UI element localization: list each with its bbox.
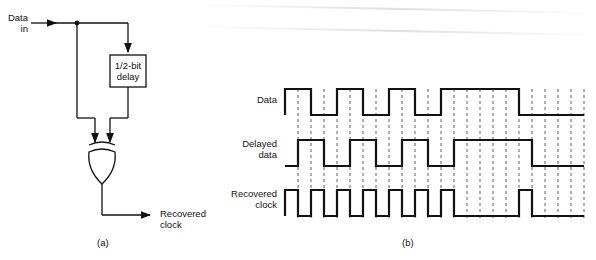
data-in-label-line2: in <box>2 23 28 34</box>
xor-gate-body <box>89 149 115 184</box>
waveform-0 <box>285 89 584 115</box>
output-label-line2: clock <box>160 219 206 230</box>
caption-a: (a) <box>97 237 109 248</box>
delay-label: 1/2-bit delay <box>110 60 146 82</box>
output-label-line1: Recovered <box>160 208 206 219</box>
timing-diagram <box>285 89 584 218</box>
waveform-1 <box>285 140 584 166</box>
circuit-diagram <box>0 0 596 260</box>
signal-label-line2: clock <box>210 199 277 210</box>
caption-b: (b) <box>402 237 414 248</box>
signal-label-recovered-clock: Recovered clock <box>210 188 277 210</box>
signal-label-data: Data <box>220 94 277 105</box>
signal-label-line2: data <box>220 149 277 160</box>
signal-label-delayed-data: Delayed data <box>220 138 277 160</box>
signal-label-line1: Data <box>220 94 277 105</box>
data-in-label: Data in <box>2 12 28 34</box>
xor-gate-back <box>89 142 115 145</box>
signal-label-line1: Recovered <box>210 188 277 199</box>
delay-label-line2: delay <box>110 71 146 82</box>
recovered-clock-output-label: Recovered clock <box>160 208 206 230</box>
delay-label-line1: 1/2-bit <box>110 60 146 71</box>
waveform-2 <box>285 190 584 216</box>
data-in-label-line1: Data <box>2 12 28 23</box>
signal-label-line1: Delayed <box>220 138 277 149</box>
